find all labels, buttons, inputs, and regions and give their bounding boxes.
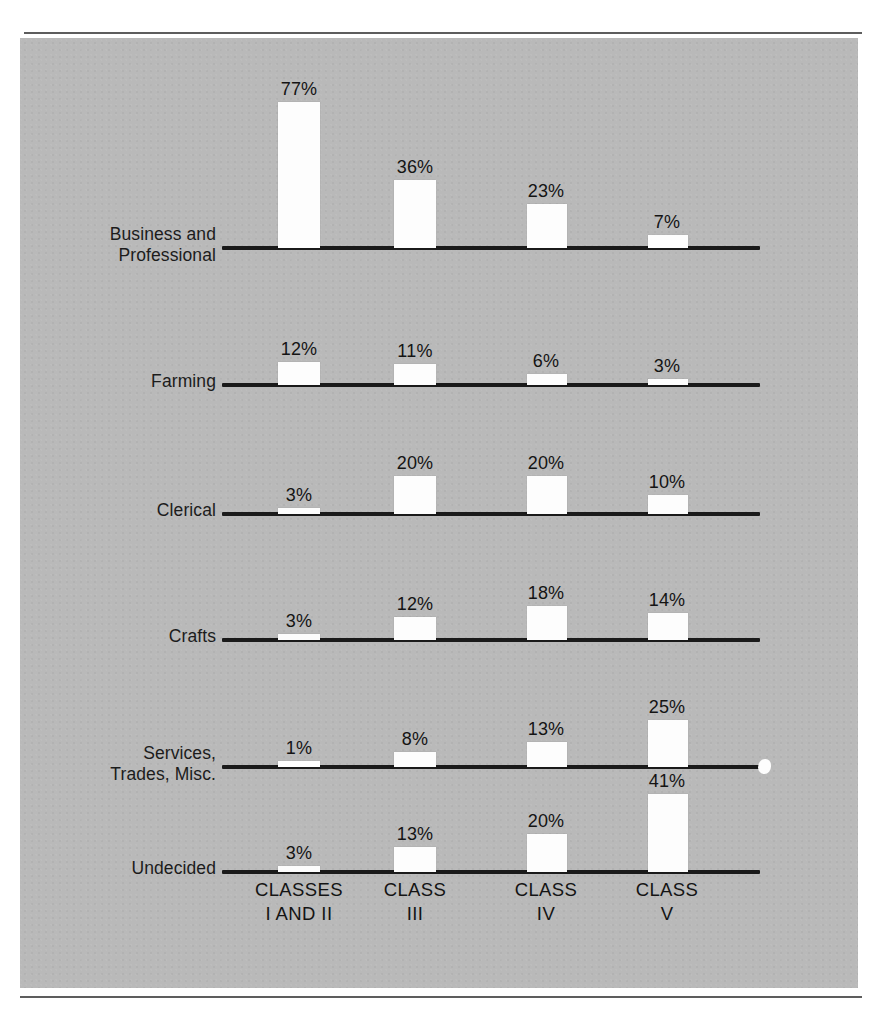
category-label: CLASS V <box>597 878 737 926</box>
bar-value-label: 10% <box>627 472 707 492</box>
bar <box>278 866 320 872</box>
bar-value-label: 6% <box>506 351 586 371</box>
bar <box>527 834 567 872</box>
figure-page: Business and Professional77%36%23%7%Farm… <box>0 0 886 1016</box>
bar <box>527 374 567 385</box>
bottom-rule <box>20 996 862 998</box>
bar-value-label: 3% <box>259 485 339 505</box>
bar-value-label: 1% <box>259 738 339 758</box>
bar <box>278 761 320 767</box>
bar <box>278 508 320 514</box>
top-rule <box>24 32 862 34</box>
grouped-bar-chart: Business and Professional77%36%23%7%Farm… <box>20 38 858 988</box>
bar <box>527 204 567 248</box>
bar <box>394 476 436 514</box>
bar-value-label: 3% <box>259 843 339 863</box>
bar <box>394 752 436 767</box>
bar <box>527 476 567 514</box>
bar-value-label: 20% <box>506 453 586 473</box>
bar-value-label: 25% <box>627 697 707 717</box>
bar <box>648 613 688 640</box>
bar <box>394 847 436 872</box>
bar-value-label: 13% <box>506 719 586 739</box>
bar-value-label: 77% <box>259 79 339 99</box>
bar-value-label: 12% <box>259 339 339 359</box>
bar <box>648 720 688 768</box>
bar <box>527 606 567 640</box>
bar-value-label: 23% <box>506 181 586 201</box>
category-label: CLASS III <box>345 878 485 926</box>
row-label: Undecided <box>20 858 216 879</box>
row-label: Business and Professional <box>20 224 216 266</box>
row-label: Farming <box>20 371 216 392</box>
row-label: Crafts <box>20 626 216 647</box>
bar <box>648 495 688 514</box>
bar <box>648 235 688 248</box>
bar <box>394 364 436 385</box>
bar <box>278 362 320 385</box>
row-label: Clerical <box>20 500 216 521</box>
bar-value-label: 14% <box>627 590 707 610</box>
bar-value-label: 3% <box>627 356 707 376</box>
bar-value-label: 12% <box>375 594 455 614</box>
bar <box>394 180 436 248</box>
axis-end-cap-icon <box>758 759 771 774</box>
chart-plate: Business and Professional77%36%23%7%Farm… <box>20 38 858 988</box>
bar <box>278 102 320 248</box>
bar <box>394 617 436 640</box>
bar-value-label: 20% <box>375 453 455 473</box>
bar-value-label: 3% <box>259 611 339 631</box>
bar-value-label: 7% <box>627 212 707 232</box>
category-label: CLASS IV <box>476 878 616 926</box>
bar-value-label: 11% <box>375 341 455 361</box>
bar-value-label: 36% <box>375 157 455 177</box>
bar <box>648 379 688 385</box>
bar-value-label: 8% <box>375 729 455 749</box>
bar <box>648 794 688 872</box>
row-label: Services, Trades, Misc. <box>20 743 216 785</box>
bar-value-label: 13% <box>375 824 455 844</box>
bar-value-label: 18% <box>506 583 586 603</box>
bar <box>527 742 567 767</box>
bar-value-label: 20% <box>506 811 586 831</box>
bar-value-label: 41% <box>627 771 707 791</box>
bar <box>278 634 320 640</box>
